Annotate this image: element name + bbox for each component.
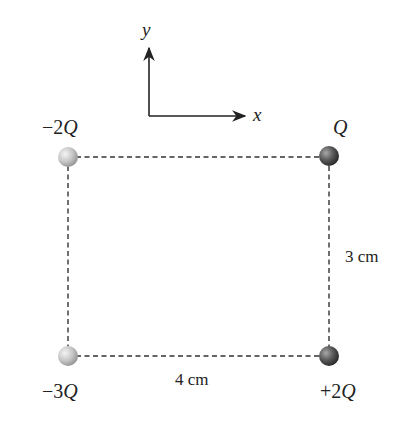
charge-sign: −2 (42, 116, 63, 138)
dimension-vertical-label: 3 cm (345, 247, 379, 266)
charge-label-top-left: −2Q (42, 116, 78, 138)
charge-var: Q (333, 116, 348, 138)
dashed-rectangle (68, 157, 329, 356)
charge-var: Q (341, 380, 356, 402)
dimension-horizontal-label: 4 cm (175, 370, 209, 389)
coordinate-axes: y x (140, 19, 262, 125)
charge-sphere-top-left (58, 147, 78, 167)
charge-sign: −3 (42, 380, 63, 402)
charge-diagram: y x −2Q Q −3Q +2Q 3 cm 4 cm (0, 0, 404, 425)
x-axis-label: x (252, 104, 262, 125)
charge-sphere-top-right (319, 146, 339, 166)
charge-sphere-bottom-right (319, 346, 339, 366)
charge-var: Q (63, 380, 78, 402)
charge-sphere-bottom-left (58, 346, 78, 366)
charge-label-bottom-right: +2Q (320, 380, 356, 402)
y-axis-label: y (140, 19, 151, 40)
charge-label-top-right: Q (333, 116, 348, 138)
charge-label-bottom-left: −3Q (42, 380, 78, 402)
charge-var: Q (63, 116, 78, 138)
charge-sign: +2 (320, 380, 341, 402)
